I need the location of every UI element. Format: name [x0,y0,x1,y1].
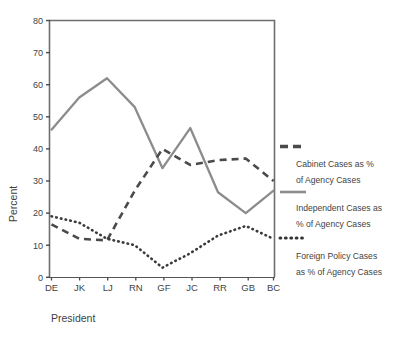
x-tick-labels: DE JK LJ RN GF JC RR GB BC [45,282,280,293]
y-tick-label: 60 [33,80,43,90]
y-tick-label: 30 [33,176,43,186]
x-tick-label-jk: JK [74,282,86,293]
legend-label-independent-line1: Independent Cases as [296,203,382,213]
x-tick-label-de: DE [45,282,58,293]
chart-legend: Cabinet Cases as % of Agency Cases Indep… [280,147,382,278]
y-tick-label: 20 [33,208,43,218]
legend-entry-independent[interactable]: Independent Cases as % of Agency Cases [280,192,382,229]
y-tick-label: 0 [38,273,43,283]
x-tick-label-gf: GF [157,282,170,293]
legend-label-foreign-line2: as % of Agency Cases [296,267,382,277]
y-tick-label: 10 [33,241,43,251]
y-tick-label: 70 [33,48,43,58]
y-tick-label: 50 [33,112,43,122]
x-tick-label-rr: RR [213,282,227,293]
x-axis-title: President [51,312,95,324]
data-series-group [52,78,274,267]
legend-entry-cabinet[interactable]: Cabinet Cases as % of Agency Cases [280,147,374,186]
legend-label-independent-line2: % of Agency Cases [296,219,371,229]
y-axis-title: Percent [7,186,19,222]
y-tick-label: 80 [33,16,43,26]
x-tick-label-rn: RN [129,282,143,293]
y-tick-label: 40 [33,144,43,154]
legend-label-cabinet-line2: of Agency Cases [296,175,361,185]
x-tick-label-jc: JC [186,282,198,293]
series-line-foreign-policy [52,216,274,267]
chart-figure: 80 70 60 50 40 30 20 10 0 DE JK LJ [0,0,409,339]
legend-label-cabinet-line1: Cabinet Cases as % [296,159,374,169]
x-tick-label-gb: GB [241,282,255,293]
y-tick-labels: 80 70 60 50 40 30 20 10 0 [33,16,43,283]
x-tick-label-bc: BC [267,282,280,293]
series-line-independent [52,78,274,213]
legend-entry-foreign-policy[interactable]: Foreign Policy Cases as % of Agency Case… [280,238,382,277]
legend-label-foreign-line1: Foreign Policy Cases [296,251,377,261]
plot-axes [50,20,276,278]
x-tick-label-lj: LJ [103,282,113,293]
line-chart-canvas: 80 70 60 50 40 30 20 10 0 DE JK LJ [0,0,409,339]
